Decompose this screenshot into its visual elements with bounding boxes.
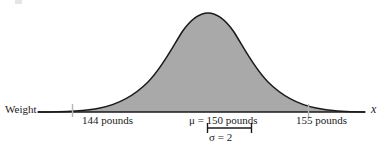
- bell-curve-graphic: [0, 0, 389, 153]
- axis-label-weight: Weight: [5, 104, 37, 115]
- value-label-155-pounds: 155 pounds: [296, 115, 347, 126]
- normal-distribution-figure: Weight x 144 pounds μ = 150 pounds 155 p…: [0, 0, 389, 153]
- curve-fill: [38, 13, 365, 112]
- value-label-sigma: σ = 2: [209, 132, 232, 143]
- value-label-144-pounds: 144 pounds: [82, 115, 133, 126]
- value-label-mean: μ = 150 pounds: [189, 115, 258, 126]
- axis-label-x: x: [371, 103, 376, 115]
